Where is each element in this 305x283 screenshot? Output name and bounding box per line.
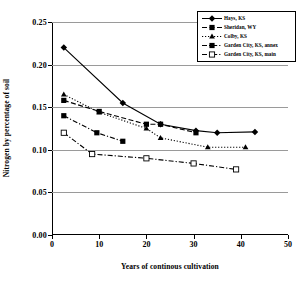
legend-swatch bbox=[201, 23, 223, 32]
y-axis-tick-label: 0.00 bbox=[32, 231, 47, 240]
legend-label: Sheridan, WY bbox=[224, 23, 256, 32]
x-axis-tick bbox=[99, 235, 100, 239]
x-axis-tick-label: 10 bbox=[95, 240, 103, 249]
x-axis-tick-label: 40 bbox=[237, 240, 245, 249]
legend-label: Colby, KS bbox=[224, 32, 247, 41]
data-point bbox=[191, 161, 196, 166]
data-point bbox=[94, 130, 99, 135]
x-axis-tick-label: 50 bbox=[284, 240, 292, 249]
data-point bbox=[61, 98, 66, 103]
data-point bbox=[214, 130, 221, 137]
data-point bbox=[158, 122, 163, 127]
data-point bbox=[233, 167, 238, 172]
legend-swatch bbox=[201, 32, 223, 41]
legend-item: Garden City, KS, main bbox=[201, 50, 293, 59]
x-axis-tick-label: 20 bbox=[142, 240, 150, 249]
nitrogen-vs-cultivation-chart: 0.000.050.100.150.200.25 01020304050 Nit… bbox=[0, 0, 305, 283]
legend-label: Garden City, KS, annex bbox=[224, 41, 278, 50]
data-point bbox=[158, 135, 164, 140]
legend-item: Hays, KS bbox=[201, 14, 293, 23]
legend-item: Garden City, KS, annex bbox=[201, 41, 293, 50]
legend-swatch bbox=[201, 41, 223, 50]
x-axis-tick bbox=[241, 235, 242, 239]
data-point bbox=[61, 91, 67, 96]
data-point bbox=[90, 151, 95, 156]
y-axis-tick-label: 0.25 bbox=[32, 18, 47, 27]
legend: Hays, KSSheridan, WYColby, KSGarden City… bbox=[197, 11, 296, 62]
legend-label: Hays, KS bbox=[224, 14, 245, 23]
y-axis-tick-label: 0.10 bbox=[32, 145, 47, 154]
legend-swatch bbox=[201, 50, 223, 59]
x-axis-tick-label: 0 bbox=[50, 240, 54, 249]
series-1 bbox=[61, 98, 198, 136]
data-point bbox=[144, 156, 149, 161]
legend-item: Sheridan, WY bbox=[201, 23, 293, 32]
x-axis-tick bbox=[146, 235, 147, 239]
x-axis-title: Years of continous cultivation bbox=[121, 262, 219, 271]
x-axis-tick bbox=[194, 235, 195, 239]
data-point bbox=[120, 139, 125, 144]
y-axis-tick-label: 0.15 bbox=[32, 103, 47, 112]
y-axis-title: Nitrogen by percentage of soil bbox=[2, 79, 11, 178]
data-point bbox=[193, 130, 198, 135]
legend-swatch bbox=[201, 14, 223, 23]
y-axis-tick-label: 0.20 bbox=[32, 60, 47, 69]
series-4 bbox=[61, 130, 238, 172]
data-point bbox=[61, 130, 66, 135]
series-line bbox=[64, 100, 196, 132]
series-line bbox=[64, 116, 123, 142]
data-point bbox=[252, 129, 259, 136]
data-point bbox=[243, 144, 249, 149]
x-axis-tick bbox=[52, 235, 53, 239]
x-axis-tick-label: 30 bbox=[190, 240, 198, 249]
legend-label: Garden City, KS, main bbox=[224, 50, 276, 59]
x-axis-tick bbox=[288, 235, 289, 239]
y-axis-tick-label: 0.05 bbox=[32, 188, 47, 197]
data-point bbox=[61, 113, 66, 118]
legend-item: Colby, KS bbox=[201, 32, 293, 41]
